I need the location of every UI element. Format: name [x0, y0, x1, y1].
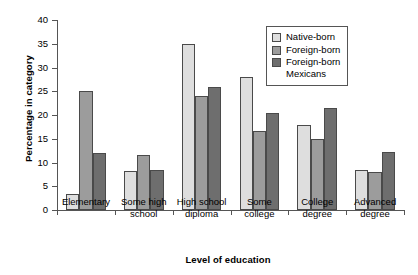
y-tick: 35: [52, 44, 57, 45]
x-category-label: Elementary: [57, 196, 115, 208]
y-axis-label: Percentage in category: [23, 19, 34, 199]
legend-label: Foreign-born Mexicans: [286, 56, 340, 79]
y-tick-label: 30: [37, 62, 48, 73]
legend-swatch-icon: [272, 58, 281, 67]
x-axis-label: Level of education: [48, 254, 408, 265]
y-tick: 10: [52, 163, 57, 164]
legend-swatch-icon: [272, 33, 281, 42]
y-tick-label: 10: [37, 157, 48, 168]
y-tick: 15: [52, 139, 57, 140]
bar: [195, 96, 208, 210]
plot-area: 0510152025303540: [57, 20, 404, 210]
bar: [324, 108, 337, 210]
bar: [182, 44, 195, 210]
x-tick: [404, 210, 405, 215]
chart-legend: Native-bornForeign-bornForeign-born Mexi…: [266, 26, 348, 86]
y-tick-label: 40: [37, 14, 48, 25]
y-tick: 20: [52, 115, 57, 116]
y-tick-label: 25: [37, 85, 48, 96]
x-category-label: Some high school: [115, 196, 173, 219]
legend-label: Foreign-born: [286, 44, 340, 56]
y-axis-line: [57, 20, 58, 210]
x-category-label: College degree: [288, 196, 346, 219]
y-tick-label: 15: [37, 133, 48, 144]
legend-item: Foreign-born: [272, 44, 340, 56]
x-category-label: Advanced degree: [346, 196, 404, 219]
y-tick: 40: [52, 20, 57, 21]
x-category-label: High school diploma: [173, 196, 231, 219]
y-tick-label: 5: [43, 180, 48, 191]
legend-item: Foreign-born Mexicans: [272, 56, 340, 79]
y-tick: 30: [52, 68, 57, 69]
y-tick-label: 20: [37, 109, 48, 120]
y-tick-label: 0: [43, 204, 48, 215]
y-tick: 5: [52, 186, 57, 187]
bar: [79, 91, 92, 210]
y-tick: 25: [52, 91, 57, 92]
bar: [208, 87, 221, 210]
legend-item: Native-born: [272, 31, 340, 43]
bar: [240, 77, 253, 210]
bar-chart-figure: Percentage in category Level of educatio…: [0, 0, 418, 275]
legend-label: Native-born: [286, 31, 335, 43]
x-tick: [57, 210, 58, 215]
x-category-label: Some college: [231, 196, 289, 219]
legend-swatch-icon: [272, 46, 281, 55]
y-tick-label: 35: [37, 38, 48, 49]
